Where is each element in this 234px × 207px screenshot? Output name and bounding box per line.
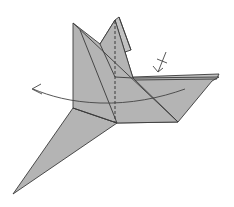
tail-flap xyxy=(13,108,117,194)
diagram-canvas xyxy=(0,0,234,207)
origami-diagram xyxy=(0,0,234,207)
